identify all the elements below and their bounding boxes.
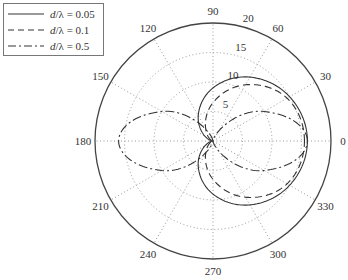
angle-tick-label: 300 [270,248,287,260]
angle-tick-label: 330 [317,200,334,212]
angle-tick-label: 180 [75,135,92,147]
angle-tick-label: 210 [92,200,109,212]
legend: d/λ = 0.05 d/λ = 0.1 d/λ = 0.5 [3,3,104,56]
series-curve-solid [198,77,307,205]
radius-tick-label: 10 [228,69,240,81]
dashdot-line-swatch-icon [8,43,44,49]
legend-item-0: d/λ = 0.05 [8,7,95,21]
angle-tick-label: 30 [320,70,332,82]
legend-item-1: d/λ = 0.1 [8,23,89,37]
angle-tick-label: 0 [340,135,346,147]
angle-tick-label: 240 [140,248,157,260]
angle-tick-label: 150 [92,70,109,82]
legend-text: /λ = 0.1 [56,24,90,36]
radius-tick-label: 15 [235,41,247,53]
angle-tick-label: 270 [205,265,222,277]
axis-labels: 03060901201501802102402703003305101520 [75,5,347,277]
radius-tick-label: 20 [243,12,255,24]
legend-text: /λ = 0.5 [56,40,90,52]
angular-grid-spoke [213,141,272,243]
legend-text: /λ = 0.05 [56,8,95,20]
legend-item-2: d/λ = 0.5 [8,39,89,53]
angle-tick-label: 90 [208,5,220,17]
radius-tick-label: 5 [223,98,229,110]
angle-tick-label: 120 [140,22,157,34]
polar-curves [119,77,308,205]
angle-tick-label: 60 [273,22,285,34]
angular-grid-spoke [154,39,213,141]
series-curve-dash-dot [119,111,308,171]
solid-line-swatch-icon [8,11,44,17]
dashed-line-swatch-icon [8,27,44,33]
